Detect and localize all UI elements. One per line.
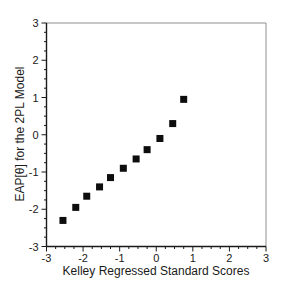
data-point-marker [96,183,103,190]
x-tick-label: -2 [78,252,88,264]
x-tick-label: -3 [42,252,52,264]
scatter-chart: -3-2-10123-3-2-10123 EAP[θ] for the 2PL … [0,0,284,293]
x-tick-label: 1 [190,252,196,264]
data-point-marker [83,193,90,200]
data-point-marker [169,120,176,127]
data-point-marker [72,204,79,211]
x-tick-label: -1 [115,252,125,264]
data-point-marker [180,96,187,103]
data-point-marker [107,174,114,181]
y-tick-label: 1 [32,92,38,104]
data-point-marker [59,217,66,224]
data-point-marker [120,165,127,172]
y-tick-label: 0 [32,129,38,141]
x-tick-label: 3 [263,252,269,264]
y-tick-label: -2 [29,203,39,215]
scatter-plot-canvas: -3-2-10123-3-2-10123 [0,0,284,293]
x-tick-label: 2 [226,252,232,264]
y-tick-label: -1 [29,166,39,178]
x-tick-label: 0 [153,252,159,264]
data-point-marker [156,135,163,142]
y-tick-label: 3 [32,17,38,29]
y-tick-label: -3 [29,241,39,253]
y-tick-label: 2 [32,54,38,66]
data-point-marker [133,155,140,162]
data-point-marker [144,146,151,153]
y-axis-label: EAP[θ] for the 2PL Model [13,67,27,202]
x-axis-label: Kelley Regressed Standard Scores [46,264,266,278]
